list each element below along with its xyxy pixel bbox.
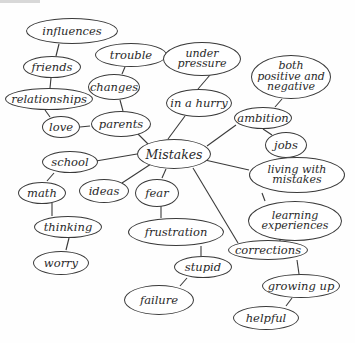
- node-under-pressure: under pressure: [163, 42, 241, 76]
- node-math: math: [18, 182, 66, 204]
- edge-relationships-friends: [50, 78, 51, 88]
- node-learning-experiences: learning experiences: [248, 201, 342, 241]
- node-living-with-mistakes: living with mistakes: [249, 157, 345, 193]
- edge-hurry-pressure: [198, 75, 210, 89]
- edge-mistakes-living: [205, 160, 249, 170]
- edge-growing-helpful: [286, 298, 292, 306]
- node-worry: worry: [33, 251, 89, 275]
- mind-map-canvas: influences trouble under pressure both p…: [0, 0, 355, 343]
- node-trouble: trouble: [95, 43, 167, 67]
- edge-changes-trouble: [122, 67, 125, 74]
- node-relationships: relationships: [5, 88, 93, 110]
- edge-thinking-worry: [66, 238, 69, 250]
- node-frustration: frustration: [128, 218, 224, 246]
- node-school: school: [42, 151, 98, 173]
- edge-stupid-failure: [180, 278, 187, 286]
- edge-school-math: [47, 173, 54, 181]
- edge-corrections-growing: [297, 260, 299, 274]
- edge-ambition-jobs: [263, 129, 272, 135]
- node-in-a-hurry: in a hurry: [166, 89, 232, 117]
- edge-mistakes-ambition: [207, 125, 236, 146]
- edge-love-relationships: [45, 110, 50, 117]
- node-corrections: corrections: [228, 240, 308, 260]
- edge-mistakes-parents: [137, 133, 148, 144]
- node-ideas: ideas: [79, 179, 129, 203]
- edge-ambition-both: [275, 99, 282, 107]
- node-friends: friends: [23, 56, 81, 78]
- node-stupid: stupid: [174, 256, 232, 278]
- node-thinking: thinking: [34, 216, 102, 238]
- node-ambition: ambition: [234, 107, 292, 129]
- node-fear: fear: [135, 179, 179, 207]
- node-mistakes-center: Mistakes: [137, 139, 211, 169]
- edge-living-learning: [262, 193, 265, 201]
- node-jobs: jobs: [265, 132, 307, 158]
- node-both-positive-negative: both positive and negative: [251, 55, 331, 99]
- edge-mistakes-fear: [162, 169, 166, 178]
- edge-parents-changes: [120, 100, 123, 111]
- edge-friends-influences: [56, 44, 59, 56]
- node-changes: changes: [88, 74, 140, 100]
- edge-parents-love: [80, 126, 90, 127]
- node-love: love: [42, 116, 80, 138]
- node-parents: parents: [91, 111, 151, 137]
- edge-mistakes-school: [96, 154, 137, 161]
- edge-mistakes-in-a-hurry: [168, 116, 185, 139]
- node-failure: failure: [124, 285, 194, 315]
- node-influences: influences: [26, 18, 118, 44]
- node-growing-up: growing up: [262, 274, 340, 298]
- node-helpful: helpful: [233, 306, 299, 330]
